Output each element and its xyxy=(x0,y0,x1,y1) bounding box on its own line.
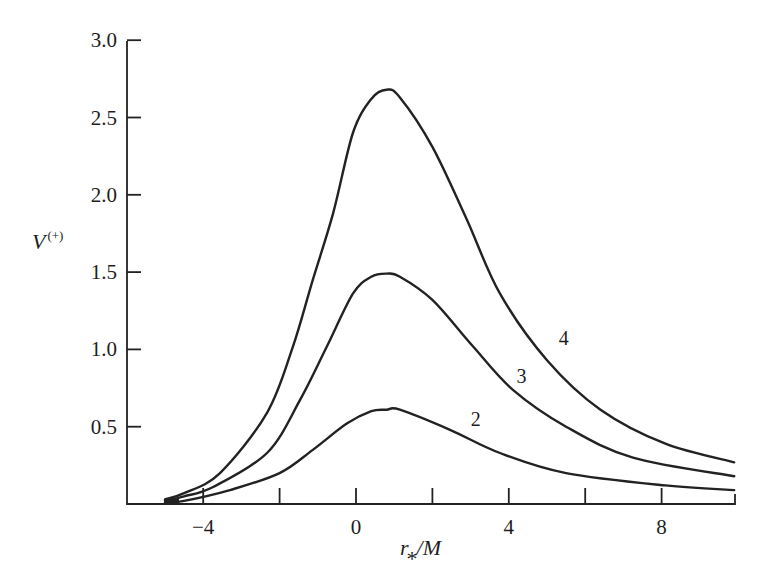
y-tick-label: 3.0 xyxy=(91,28,117,52)
curve-label-2: 2 xyxy=(471,408,481,430)
curve-labels: 432 xyxy=(471,327,569,429)
x-axis-label: r*/M xyxy=(400,535,443,571)
curve-l3 xyxy=(165,273,734,500)
y-tick-label: 1.0 xyxy=(91,337,117,361)
curve-label-3: 3 xyxy=(517,365,527,387)
curve-convergence-mark xyxy=(165,498,179,504)
x-axis-ticks: −4048 xyxy=(192,488,667,539)
y-tick-label: 0.5 xyxy=(91,415,117,439)
y-tick-label: 1.5 xyxy=(91,260,117,284)
curve-l2 xyxy=(165,408,734,502)
y-tick-label: 2.0 xyxy=(91,183,117,207)
x-tick-label: 0 xyxy=(351,515,362,539)
curve-l4 xyxy=(165,89,734,499)
x-tick-label: 8 xyxy=(656,515,667,539)
x-tick-label: 4 xyxy=(504,515,515,539)
curve-label-4: 4 xyxy=(559,327,569,349)
curves xyxy=(165,89,734,504)
y-axis-ticks: 0.51.01.52.02.53.0 xyxy=(91,28,141,439)
x-tick-label: −4 xyxy=(192,515,215,539)
y-tick-label: 2.5 xyxy=(91,106,117,130)
y-axis-label: V(+) xyxy=(32,228,63,254)
potential-chart: 0.51.01.52.02.53.0 −4048 432 V(+) r*/M xyxy=(0,0,773,586)
